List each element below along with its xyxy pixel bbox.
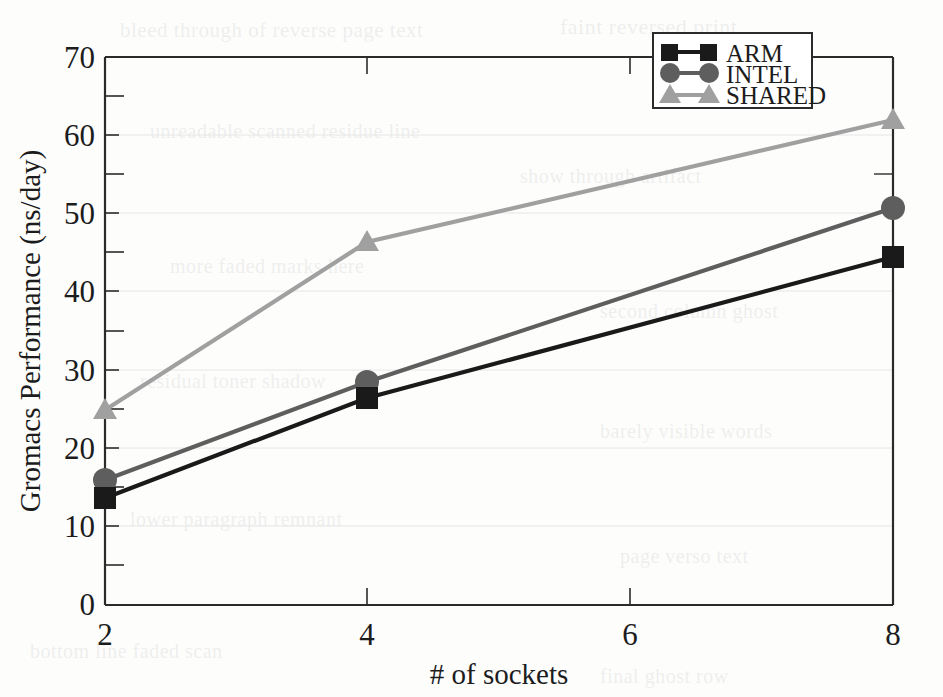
legend-circle-icon: [699, 63, 719, 83]
chart-legend[interactable]: ARM INTEL SHARED: [653, 33, 826, 109]
shared-marker: [881, 108, 905, 129]
figure-canvas: bleed through of reverse page text faint…: [0, 0, 943, 697]
arm-marker: [94, 487, 116, 509]
x-axis-ticks: [367, 57, 630, 605]
plot-frame: [105, 57, 893, 605]
y-tick-label: 20: [64, 431, 95, 466]
x-axis-title: # of sockets: [430, 658, 569, 690]
y-tick-label: 50: [64, 196, 95, 231]
arm-marker: [882, 246, 904, 268]
x-tick-label: 6: [622, 617, 638, 652]
series-arm: [94, 246, 904, 509]
intel-line: [105, 208, 893, 480]
line-chart: 70 60 50 40 30 20 10 0 2 4 6 8 # of sock…: [0, 0, 943, 697]
y-tick-label: 40: [64, 274, 95, 309]
legend-label-shared: SHARED: [726, 82, 826, 109]
legend-circle-icon: [660, 63, 680, 83]
y-tick-labels: 70 60 50 40 30 20 10 0: [64, 40, 95, 622]
x-tick-label: 8: [885, 617, 901, 652]
legend-square-icon: [700, 44, 717, 61]
x-tick-labels: 2 4 6 8: [97, 617, 901, 652]
y-tick-label: 30: [64, 353, 95, 388]
legend-square-icon: [661, 44, 678, 61]
y-tick-label: 70: [64, 40, 95, 75]
arm-marker: [356, 387, 378, 409]
x-tick-label: 2: [97, 617, 113, 652]
y-axis-title: Gromacs Performance (ns/day): [14, 150, 47, 512]
y-tick-label: 0: [80, 587, 96, 622]
arm-line: [105, 257, 893, 498]
shared-line: [105, 120, 893, 410]
y-tick-label: 10: [64, 509, 95, 544]
y-tick-label: 60: [64, 118, 95, 153]
series-shared: [93, 108, 905, 419]
x-tick-label: 4: [359, 617, 375, 652]
intel-marker: [881, 196, 905, 220]
gridlines: [105, 135, 893, 526]
